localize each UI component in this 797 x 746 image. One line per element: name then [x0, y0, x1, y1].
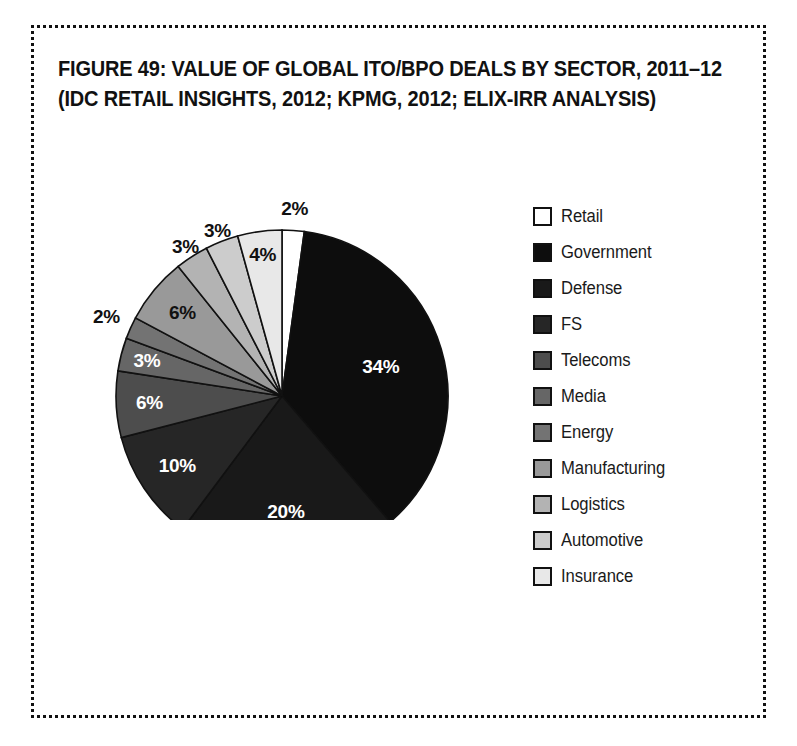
legend-item-label: Manufacturing — [561, 458, 665, 479]
legend-item-label: Defense — [561, 278, 622, 299]
legend-item-label: Insurance — [561, 566, 633, 587]
legend-item[interactable]: Government — [533, 234, 671, 270]
legend-item[interactable]: Energy — [533, 414, 671, 450]
legend-swatch-icon — [533, 423, 552, 442]
pie-slice-label: 3% — [172, 236, 199, 258]
legend-item-label: Automotive — [561, 530, 643, 551]
legend-item[interactable]: Logistics — [533, 486, 671, 522]
pie-slice-label: 2% — [93, 306, 120, 328]
legend-item-label: FS — [561, 314, 582, 335]
legend-item[interactable]: Automotive — [533, 522, 671, 558]
legend-item-label: Logistics — [561, 494, 625, 515]
pie-slice-label: 3% — [134, 350, 161, 372]
legend-item-label: Government — [561, 242, 652, 263]
legend-item[interactable]: Defense — [533, 270, 671, 306]
legend-swatch-icon — [533, 351, 552, 370]
legend-item-label: Energy — [561, 422, 613, 443]
legend-swatch-icon — [533, 315, 552, 334]
pie-slice-label: 4% — [249, 244, 276, 266]
pie-chart: 2%34%20%10%6%3%2%6%3%3%4% — [0, 0, 797, 746]
legend-swatch-icon — [533, 207, 552, 226]
legend-item-label: Retail — [561, 206, 603, 227]
legend-item-label: Media — [561, 386, 606, 407]
legend-swatch-icon — [533, 279, 552, 298]
legend-swatch-icon — [533, 459, 552, 478]
legend-swatch-icon — [533, 387, 552, 406]
legend-item[interactable]: Telecoms — [533, 342, 671, 378]
legend-swatch-icon — [533, 243, 552, 262]
pie-slice-label: 10% — [159, 455, 196, 477]
legend-item[interactable]: FS — [533, 306, 671, 342]
legend-swatch-icon — [533, 495, 552, 514]
legend-item[interactable]: Retail — [533, 198, 671, 234]
legend-item[interactable]: Insurance — [533, 558, 671, 594]
pie-slice-label: 3% — [204, 220, 231, 242]
pie-slice-label: 6% — [136, 392, 163, 414]
pie-slice-label: 2% — [281, 198, 308, 220]
legend-swatch-icon — [533, 531, 552, 550]
pie-slice-label: 34% — [362, 356, 399, 378]
legend: RetailGovernmentDefenseFSTelecomsMediaEn… — [533, 198, 671, 594]
legend-item[interactable]: Manufacturing — [533, 450, 671, 486]
pie-slice-label: 20% — [267, 501, 304, 523]
legend-item-label: Telecoms — [561, 350, 630, 371]
legend-item[interactable]: Media — [533, 378, 671, 414]
legend-swatch-icon — [533, 567, 552, 586]
pie-slice-label: 6% — [169, 302, 196, 324]
